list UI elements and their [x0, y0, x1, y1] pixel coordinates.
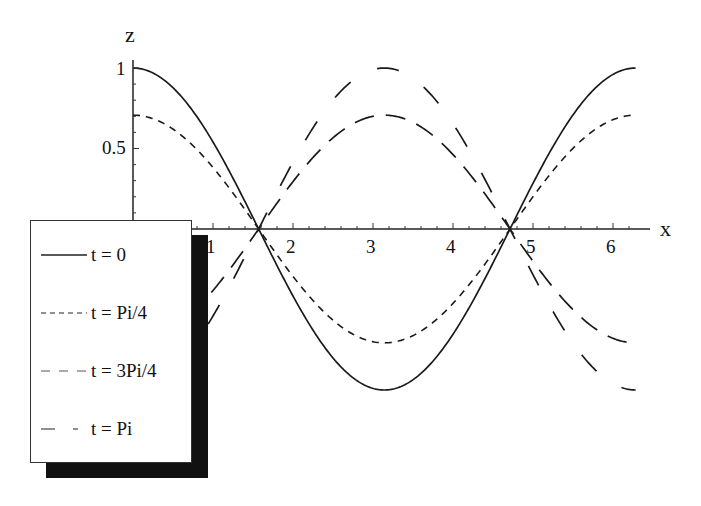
y-tick-1: 1 [116, 58, 126, 80]
long-dash-swatch-icon [41, 426, 89, 432]
short-dash-swatch-icon [41, 310, 89, 316]
legend-label: t = Pi [91, 418, 132, 440]
legend-label: t = Pi/4 [91, 302, 147, 324]
legend: t = 0 t = Pi/4 t = 3Pi/4 t = Pi [30, 220, 192, 463]
legend-label: t = 3Pi/4 [91, 360, 157, 382]
x-tick-4: 4 [446, 236, 456, 258]
x-tick-6: 6 [606, 236, 616, 258]
legend-item-t0: t = 0 [41, 243, 126, 267]
x-axis-label: x [660, 216, 671, 242]
legend-item-t-pi-4: t = Pi/4 [41, 301, 147, 325]
x-tick-3: 3 [366, 236, 376, 258]
axis-ticks [133, 68, 629, 229]
x-tick-5: 5 [526, 236, 536, 258]
solid-line-swatch-icon [41, 252, 89, 258]
y-tick-0.5: 0.5 [102, 137, 126, 159]
legend-item-t-3pi-4: t = 3Pi/4 [41, 359, 157, 383]
x-tick-2: 2 [286, 236, 296, 258]
medium-dash-swatch-icon [41, 368, 89, 374]
y-axis-label: z [125, 22, 135, 48]
legend-item-t-pi: t = Pi [41, 417, 132, 441]
legend-label: t = 0 [91, 244, 126, 266]
